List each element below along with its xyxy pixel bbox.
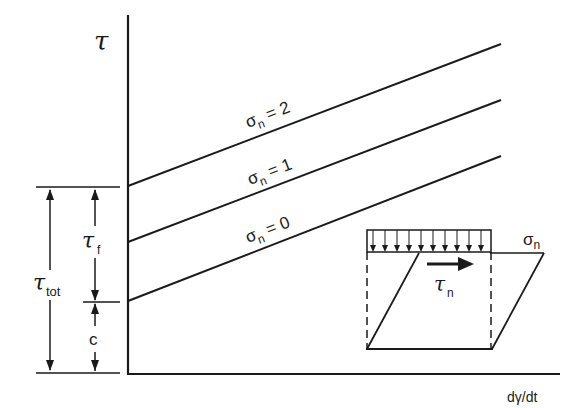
y-axis-label: τ: [94, 26, 109, 56]
line-sigma-1: [128, 100, 501, 242]
svg-text:c: c: [89, 330, 98, 349]
dimension-cohesion: c: [89, 303, 99, 371]
label-sigma-1: σn = 1: [245, 155, 296, 193]
load-arrows-icon: [370, 230, 484, 252]
svg-text:tot: tot: [46, 284, 61, 299]
svg-text:n: n: [447, 286, 454, 300]
dimension-tau-tot: τ tot: [33, 189, 61, 371]
x-axis-label: dγ/dt: [507, 389, 537, 405]
svg-text:τ: τ: [82, 228, 95, 253]
diagram-canvas: τ dγ/dt σn = 2 σn = 1 σn = 0 τ tot τ f: [0, 0, 580, 408]
line-sigma-2: [128, 44, 501, 186]
svg-text:σn = 1: σn = 1: [245, 155, 296, 193]
svg-text:f: f: [97, 243, 101, 257]
label-sigma-2: σn = 2: [243, 98, 294, 136]
deformed-left-edge: [367, 253, 419, 349]
svg-text:σn = 0: σn = 0: [243, 213, 294, 251]
shear-box-inset: σn τ n: [366, 230, 544, 349]
label-sigma-0: σn = 0: [243, 213, 294, 251]
svg-text:σn = 2: σn = 2: [243, 98, 294, 136]
svg-text:τ: τ: [33, 270, 46, 295]
dimension-tau-f: τ f: [82, 189, 101, 301]
tau-n-label: τ: [434, 272, 446, 296]
sigma-n-label: σn: [523, 230, 540, 252]
deformed-right-edge: [492, 253, 544, 349]
